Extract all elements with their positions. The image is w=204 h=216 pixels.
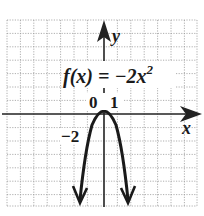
function-graph: f(x) = −2x2 y x 0 1 −2 (0, 0, 204, 216)
x-axis-label: x (181, 118, 191, 138)
x-tick-1-label: 1 (110, 93, 119, 112)
function-label: f(x) = −2x2 (63, 62, 154, 88)
y-tick-neg2-label: −2 (61, 127, 79, 146)
origin-label: 0 (89, 93, 98, 112)
y-axis-label: y (110, 26, 121, 46)
